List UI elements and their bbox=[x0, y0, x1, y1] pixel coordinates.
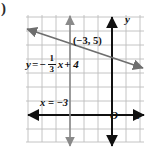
equation-equals: = bbox=[32, 59, 38, 70]
equation-lhs: y bbox=[26, 59, 31, 70]
item-marker: ) bbox=[1, 1, 6, 16]
equation-x-term: x bbox=[58, 59, 64, 70]
equation-constant: + 4 bbox=[64, 59, 79, 70]
equation-minus-sign: − bbox=[39, 59, 46, 70]
origin-label: O bbox=[110, 110, 118, 121]
vertical-line-label: x = −3 bbox=[40, 98, 68, 109]
fraction-numerator: 1 bbox=[49, 54, 56, 63]
fraction-one-third: 1 3 bbox=[48, 54, 56, 74]
point-label: (−3, 5) bbox=[73, 36, 102, 47]
fraction-denominator: 3 bbox=[49, 65, 56, 74]
equation-label: y = − 1 3 x + 4 bbox=[26, 54, 79, 74]
y-axis-label: y bbox=[125, 14, 130, 25]
x-axis-label: x bbox=[134, 110, 140, 121]
